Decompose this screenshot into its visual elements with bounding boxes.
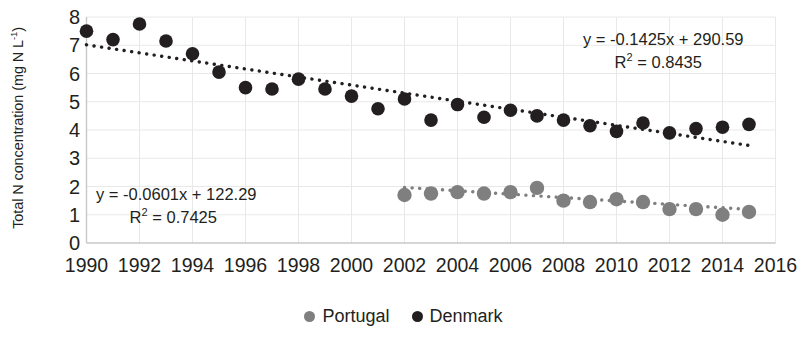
data-point-denmark-2001: [371, 102, 385, 116]
legend-item-denmark[interactable]: Denmark: [412, 306, 503, 327]
data-point-denmark-1995: [212, 65, 226, 79]
data-point-portugal-2002: [397, 188, 411, 202]
denmark-r2-text: R2 = 0.8435: [583, 50, 744, 73]
data-point-denmark-2004: [451, 98, 465, 112]
portugal-equation-text: y = -0.0601x + 122.29: [96, 183, 257, 205]
data-point-denmark-1996: [239, 81, 253, 95]
legend-label: Portugal: [322, 306, 389, 327]
data-point-portugal-2006: [503, 185, 517, 199]
legend-label: Denmark: [430, 306, 503, 327]
data-point-denmark-1991: [106, 33, 120, 47]
data-point-portugal-2012: [662, 202, 676, 216]
data-point-denmark-2006: [504, 103, 518, 117]
data-point-denmark-2005: [477, 110, 491, 124]
data-point-portugal-2015: [742, 205, 756, 219]
annotation-denmark-equation: y = -0.1425x + 290.59 R2 = 0.8435: [583, 28, 744, 73]
legend-marker-icon: [412, 311, 423, 322]
data-point-denmark-2010: [610, 125, 624, 139]
chart-figure: Total N concentration (mg N L-1) 8765432…: [0, 0, 807, 338]
data-point-denmark-2014: [716, 120, 730, 134]
data-point-portugal-2005: [477, 186, 491, 200]
denmark-equation-text: y = -0.1425x + 290.59: [583, 28, 744, 50]
denmark-r2-value: = 0.8435: [633, 53, 702, 71]
data-point-portugal-2013: [689, 202, 703, 216]
data-point-denmark-2009: [583, 119, 597, 133]
legend-item-portugal[interactable]: Portugal: [304, 306, 389, 327]
data-point-denmark-1998: [292, 72, 306, 86]
data-point-denmark-2002: [398, 92, 412, 106]
data-point-denmark-1994: [186, 47, 200, 61]
data-point-portugal-2014: [715, 208, 729, 222]
portugal-r2-prefix: R: [130, 208, 142, 226]
data-point-denmark-2012: [663, 126, 677, 140]
data-point-denmark-1997: [265, 82, 279, 96]
x-axis-tick-2016: 2016: [741, 256, 807, 276]
data-point-denmark-1999: [318, 82, 332, 96]
data-point-denmark-2007: [530, 109, 544, 123]
data-point-portugal-2010: [609, 192, 623, 206]
data-point-portugal-2003: [424, 186, 438, 200]
data-point-denmark-1993: [159, 34, 173, 48]
data-point-portugal-2007: [530, 181, 544, 195]
data-point-portugal-2004: [450, 185, 464, 199]
data-point-denmark-2015: [742, 118, 756, 132]
annotation-portugal-equation: y = -0.0601x + 122.29 R2 = 0.7425: [96, 183, 257, 228]
data-point-portugal-2009: [583, 195, 597, 209]
data-point-portugal-2011: [636, 195, 650, 209]
data-point-denmark-2000: [345, 89, 359, 103]
data-point-denmark-2003: [424, 113, 438, 127]
x-axis-tick-labels: 1990199219941996199820002002200420062008…: [0, 256, 807, 290]
data-point-denmark-1992: [133, 17, 147, 31]
legend-marker-icon: [304, 311, 315, 322]
denmark-r2-prefix: R: [615, 53, 627, 71]
data-point-denmark-1990: [80, 24, 94, 38]
data-point-denmark-2011: [636, 116, 650, 130]
chart-legend: PortugalDenmark: [0, 306, 807, 327]
data-point-denmark-2013: [689, 122, 703, 136]
data-point-portugal-2008: [556, 193, 570, 207]
portugal-r2-text: R2 = 0.7425: [96, 205, 257, 228]
data-point-denmark-2008: [557, 113, 571, 127]
portugal-r2-value: = 0.7425: [148, 208, 217, 226]
